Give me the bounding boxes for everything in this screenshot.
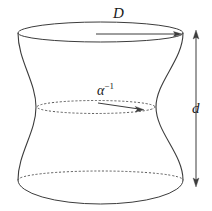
bottom-ellipse-front-solid: [18, 180, 183, 204]
waist-radius-label: α−1: [97, 82, 114, 98]
left-silhouette: [18, 33, 36, 180]
diameter-label: D: [113, 6, 124, 21]
bottom-ellipse-back-dotted: [18, 171, 183, 180]
right-silhouette: [156, 33, 183, 180]
waist-radius-arrow-line: [98, 103, 139, 109]
height-label: d: [192, 101, 200, 116]
hyperboloid-figure: D d α−1: [0, 0, 212, 211]
waist-radius-arrow-head-icon: [135, 106, 144, 112]
diameter-arrow-head-icon: [174, 32, 183, 37]
waist-radius-label-exponent: −1: [104, 81, 114, 91]
hyperboloid-drawing: [0, 0, 212, 211]
top-ellipse-back-arc: [18, 22, 183, 33]
